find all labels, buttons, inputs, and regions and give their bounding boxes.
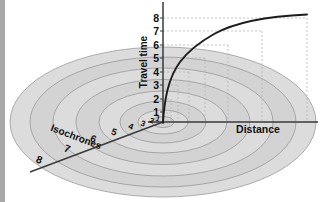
y-tick-7: 7 bbox=[153, 25, 159, 37]
y-tick-4: 4 bbox=[153, 66, 159, 78]
diagram-canvas: 8 7 6 5 4 3 2 1 Travel time Distance Iso… bbox=[0, 0, 320, 202]
travel-time-axis-label: Travel time bbox=[138, 35, 149, 88]
y-tick-2: 2 bbox=[153, 93, 159, 105]
isochrones-travel-time-figure: 8 7 6 5 4 3 2 1 Travel time Distance Iso… bbox=[0, 0, 320, 202]
y-tick-5: 5 bbox=[153, 52, 159, 64]
left-border-strip bbox=[0, 0, 5, 202]
distance-axis-label: Distance bbox=[236, 123, 280, 135]
y-tick-6: 6 bbox=[153, 39, 159, 51]
y-tick-8: 8 bbox=[153, 12, 159, 24]
y-tick-3: 3 bbox=[153, 79, 159, 91]
